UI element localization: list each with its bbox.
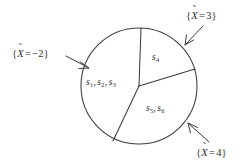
divider-line-lower-left xyxy=(113,86,139,141)
partition-diagram-svg xyxy=(0,0,250,166)
divider-line-top xyxy=(139,28,141,86)
leader-line-top-right xyxy=(185,26,203,45)
figure-container: s1, s2, s3 s4 s5, s6 {X˜ = −2} {X˜ = 3} … xyxy=(0,0,250,166)
divider-line-right xyxy=(139,69,195,86)
region-label-left: s1, s2, s3 xyxy=(86,78,116,88)
leader-line-left xyxy=(66,56,89,68)
leader-line-bottom-right xyxy=(188,123,209,142)
region-label-bottom: s5, s6 xyxy=(146,104,165,114)
region-label-top: s4 xyxy=(152,53,160,63)
callout-label-bottom-right: {X˜ = 4} xyxy=(196,148,227,159)
callout-label-left: {X˜ = −2} xyxy=(12,49,49,60)
callout-label-top-right: {X˜ = 3} xyxy=(186,11,217,22)
